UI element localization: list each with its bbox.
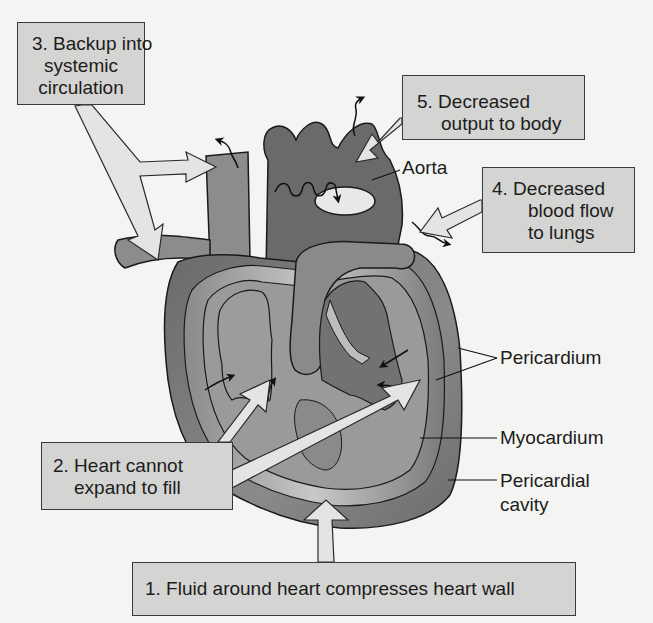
callout-text: 5. Decreased: [417, 91, 584, 113]
callout-text: output to body: [417, 113, 584, 135]
callout-text: expand to fill: [53, 477, 232, 499]
callout-fluid-compresses-heart-wall: 1. Fluid around heart compresses heart w…: [132, 562, 576, 616]
label-aorta: Aorta: [402, 157, 447, 179]
callout-text: 1. Fluid around heart compresses heart w…: [145, 578, 575, 600]
label-pericardial-cavity: Pericardial cavity: [500, 469, 590, 517]
callout-decreased-output-to-body: 5. Decreased output to body: [402, 75, 585, 140]
callout-heart-cannot-expand: 2. Heart cannot expand to fill: [41, 442, 233, 510]
callout-text: 2. Heart cannot: [53, 455, 232, 477]
callout-text: 4. Decreased: [492, 178, 634, 200]
callout-text: systemic: [18, 55, 144, 77]
callout-backup-into-systemic-circulation: 3. Backup into systemic circulation: [17, 22, 145, 105]
label-myocardium: Myocardium: [500, 427, 603, 449]
callout-text: 3. Backup into: [18, 33, 144, 55]
label-text: cavity: [500, 493, 590, 517]
label-pericardium: Pericardium: [500, 347, 601, 369]
callout-decreased-blood-flow-to-lungs: 4. Decreased blood flow to lungs: [482, 167, 635, 253]
callout-text: to lungs: [492, 222, 634, 244]
label-text: Pericardial: [500, 469, 590, 493]
callout-text: blood flow: [492, 200, 634, 222]
callout-text: circulation: [18, 77, 144, 99]
